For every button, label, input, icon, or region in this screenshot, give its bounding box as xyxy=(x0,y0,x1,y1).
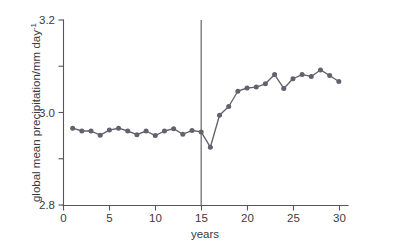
data-point xyxy=(199,129,204,134)
data-point xyxy=(208,145,213,150)
chart-canvas: 3.2 3.0 2.8 0 5 10 15 20 25 30 years glo… xyxy=(0,0,405,247)
data-point xyxy=(290,76,295,81)
data-point xyxy=(125,129,130,134)
data-point xyxy=(272,72,277,77)
data-point xyxy=(281,86,286,91)
y-axis-title-text: global mean precipitation/mm day xyxy=(30,30,42,202)
data-series-group xyxy=(70,67,341,149)
data-point xyxy=(180,132,185,137)
precipitation-time-series-figure: 3.2 3.0 2.8 0 5 10 15 20 25 30 years glo… xyxy=(0,0,405,247)
data-point xyxy=(153,133,158,138)
data-point xyxy=(116,126,121,131)
data-point xyxy=(162,129,167,134)
data-point xyxy=(89,129,94,134)
series-line-precipitation xyxy=(73,70,339,147)
data-point xyxy=(318,67,323,72)
x-tick-label-30: 30 xyxy=(333,212,346,224)
x-axis-title: years xyxy=(191,228,219,240)
series-markers-precipitation xyxy=(70,67,341,149)
x-tick-label-20: 20 xyxy=(241,212,254,224)
data-point xyxy=(300,72,305,77)
y-tick-label-3.2: 3.2 xyxy=(39,14,55,26)
data-point xyxy=(98,133,103,138)
x-tick-label-25: 25 xyxy=(287,212,300,224)
data-point xyxy=(217,113,222,118)
data-point xyxy=(235,89,240,94)
y-axis-title: global mean precipitation/mm day-1 xyxy=(29,22,42,202)
data-point xyxy=(263,81,268,86)
data-point xyxy=(309,74,314,79)
data-point xyxy=(226,104,231,109)
y-axis-title-exponent: -1 xyxy=(29,22,38,30)
x-tick-label-0: 0 xyxy=(60,212,66,224)
data-point xyxy=(70,126,75,131)
data-point xyxy=(189,128,194,133)
data-point xyxy=(245,85,250,90)
x-axis-group: 0 5 10 15 20 25 30 xyxy=(60,206,348,225)
y-axis-title-group: global mean precipitation/mm day-1 xyxy=(29,22,42,202)
data-point xyxy=(79,129,84,134)
data-point xyxy=(144,129,149,134)
y-axis-group: 3.2 3.0 2.8 xyxy=(39,14,64,211)
data-point xyxy=(336,79,341,84)
data-point xyxy=(171,126,176,131)
data-point xyxy=(107,128,112,133)
x-tick-label-15: 15 xyxy=(195,212,208,224)
data-point xyxy=(327,73,332,78)
data-point xyxy=(134,132,139,137)
data-point xyxy=(254,85,259,90)
x-tick-label-10: 10 xyxy=(149,212,162,224)
x-tick-label-5: 5 xyxy=(106,212,112,224)
